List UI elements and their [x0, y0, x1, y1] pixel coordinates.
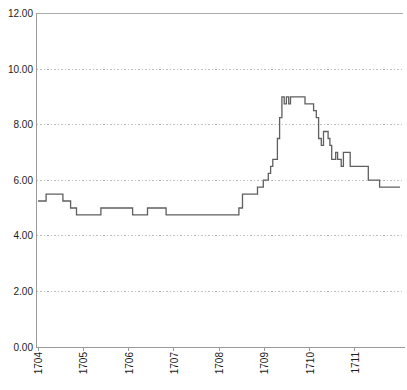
chart-page: 0.002.004.006.008.0010.0012.001704170517…: [0, 0, 407, 390]
y-tick-label: 12.00: [8, 8, 33, 19]
y-tick-label: 10.00: [8, 64, 33, 75]
x-tick-label: 1706: [124, 352, 135, 375]
x-tick-label: 1708: [214, 352, 225, 375]
x-tick-label: 1710: [305, 352, 316, 375]
x-tick-label: 1711: [350, 352, 361, 374]
line-chart: 0.002.004.006.008.0010.0012.001704170517…: [0, 0, 407, 390]
y-tick-label: 8.00: [14, 119, 34, 130]
y-tick-label: 6.00: [14, 175, 34, 186]
x-tick-label: 1705: [78, 352, 89, 375]
x-tick-label: 1709: [259, 352, 270, 375]
x-tick-label: 1707: [169, 352, 180, 375]
y-tick-label: 2.00: [14, 286, 34, 297]
y-tick-label: 4.00: [14, 230, 34, 241]
x-tick-label: 1704: [33, 352, 44, 375]
data-line-value: [38, 97, 400, 215]
y-tick-label: 0.00: [14, 342, 34, 353]
